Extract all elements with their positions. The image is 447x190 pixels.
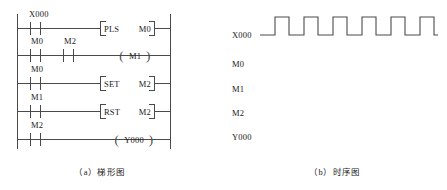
contact-label-x000: X000 bbox=[29, 10, 49, 19]
caption-ladder: （a）梯形图 bbox=[0, 165, 200, 177]
instruction-operand-m0: M0 bbox=[139, 24, 151, 34]
signal-label-m0: M0 bbox=[232, 59, 244, 69]
waveform-x000 bbox=[260, 10, 438, 40]
coil-paren-right: ) bbox=[146, 49, 151, 62]
instruction-mnemonic-pls: PLS bbox=[104, 24, 119, 34]
ladder-diagram: X000 PLS M0 M0 M2 ( M1 ) M0 SET bbox=[0, 0, 225, 190]
timing-diagram: X000 M0 M1 M2 Y000 （b）时序图 bbox=[225, 0, 447, 190]
figure-root: X000 PLS M0 M0 M2 ( M1 ) M0 SET bbox=[0, 0, 447, 190]
contact-label-m0-r3: M0 bbox=[31, 65, 43, 74]
signal-label-m1: M1 bbox=[232, 84, 244, 94]
no-contact-m0-r3[interactable] bbox=[30, 77, 41, 90]
coil-operand-m1: M1 bbox=[124, 51, 146, 61]
contact-label-m1-r4: M1 bbox=[31, 93, 43, 102]
caption-timing: （b）时序图 bbox=[265, 165, 405, 177]
signal-label-y000: Y000 bbox=[232, 132, 252, 142]
no-contact-m2-r2[interactable] bbox=[63, 49, 74, 62]
no-contact-m1-r4[interactable] bbox=[30, 105, 41, 118]
instruction-block-set[interactable]: SET M2 bbox=[100, 76, 155, 91]
coil-operand-y000: Y000 bbox=[119, 135, 149, 145]
coil-y000[interactable]: ( Y000 ) bbox=[105, 132, 163, 147]
ladder-left-power-rail bbox=[17, 14, 18, 149]
coil-m1[interactable]: ( M1 ) bbox=[112, 48, 158, 63]
instruction-operand-m2-set: M2 bbox=[139, 79, 151, 89]
ladder-right-power-rail bbox=[170, 14, 171, 149]
coil-paren-right: ) bbox=[149, 133, 154, 146]
instruction-mnemonic-set: SET bbox=[104, 79, 120, 89]
instruction-operand-m2-rst: M2 bbox=[139, 107, 151, 117]
contact-label-m2-r2: M2 bbox=[64, 37, 76, 46]
no-contact-m2-r5[interactable] bbox=[30, 133, 41, 146]
no-contact-m0-r2[interactable] bbox=[30, 49, 41, 62]
signal-label-x000: X000 bbox=[232, 30, 252, 40]
instruction-block-rst[interactable]: RST M2 bbox=[100, 104, 155, 119]
signal-label-m2: M2 bbox=[232, 108, 244, 118]
contact-label-m0-r2: M0 bbox=[31, 37, 43, 46]
contact-label-m2-r5: M2 bbox=[31, 121, 43, 130]
instruction-block-pls[interactable]: PLS M0 bbox=[100, 21, 155, 36]
instruction-mnemonic-rst: RST bbox=[104, 107, 120, 117]
no-contact-x000[interactable] bbox=[30, 22, 41, 35]
